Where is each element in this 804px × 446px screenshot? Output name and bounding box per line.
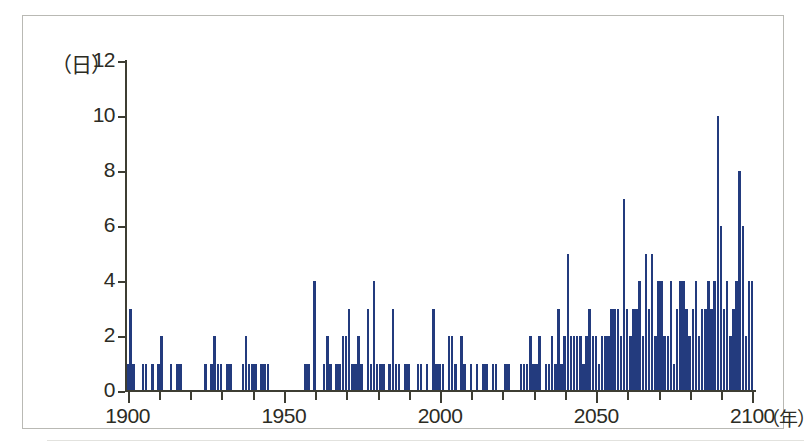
- bar: [442, 364, 445, 392]
- x-axis-minor-tick: [659, 392, 661, 400]
- bar: [454, 364, 457, 392]
- x-axis-minor-tick: [471, 392, 473, 400]
- x-axis: 19001950200020502100: [125, 390, 756, 392]
- y-axis-tick-label: 0: [104, 378, 115, 402]
- x-axis-minor-tick: [346, 392, 348, 400]
- x-axis-minor-tick: [502, 392, 504, 400]
- x-axis-minor-tick: [221, 392, 223, 400]
- y-axis-tick-label: 4: [104, 268, 115, 292]
- x-axis-major-tick: [128, 392, 130, 403]
- y-axis-tick: [118, 116, 125, 118]
- x-axis-minor-tick: [253, 392, 255, 400]
- bar: [426, 364, 429, 392]
- x-axis-minor-tick: [690, 392, 692, 400]
- x-axis-minor-tick: [534, 392, 536, 400]
- bar: [145, 364, 148, 392]
- x-axis-major-tick: [752, 392, 754, 403]
- bar: [420, 364, 423, 392]
- x-axis-minor-tick: [409, 392, 411, 400]
- bar: [751, 281, 754, 391]
- x-axis-tick-label: 2100: [730, 404, 775, 428]
- figure-frame: （日） （年） 024681012 19001950200020502100: [22, 15, 784, 429]
- x-axis-tick-label: 2000: [418, 404, 463, 428]
- x-axis-minor-tick: [627, 392, 629, 400]
- bar: [170, 364, 173, 392]
- x-axis-minor-tick: [159, 392, 161, 400]
- bar: [267, 364, 270, 392]
- bar: [485, 364, 488, 392]
- scan-separator-line: [47, 440, 804, 441]
- y-axis-tick-label: 8: [104, 158, 115, 182]
- x-axis-tick-label: 1900: [105, 404, 150, 428]
- bar: [360, 364, 363, 392]
- bar: [495, 364, 498, 392]
- bar: [307, 364, 310, 392]
- y-axis-tick: [118, 61, 125, 63]
- bar: [507, 364, 510, 392]
- bar: [329, 364, 332, 392]
- chart-figure: （日） （年） 024681012 19001950200020502100: [0, 0, 804, 446]
- x-axis-minor-tick: [721, 392, 723, 400]
- y-axis-tick-label: 2: [104, 323, 115, 347]
- y-axis-tick-label: 6: [104, 213, 115, 237]
- bar: [382, 364, 385, 392]
- bar: [470, 364, 473, 392]
- bar: [463, 364, 466, 392]
- y-axis-tick-label: 12: [93, 48, 115, 72]
- x-axis-minor-tick: [378, 392, 380, 400]
- bar: [179, 364, 182, 392]
- bar: [151, 364, 154, 392]
- bar: [476, 364, 479, 392]
- x-axis-minor-tick: [565, 392, 567, 400]
- y-axis-tick: [118, 391, 125, 393]
- y-axis-tick-label: 10: [93, 103, 115, 127]
- bar: [407, 364, 410, 392]
- bar-series: [126, 61, 754, 391]
- bar: [160, 336, 163, 391]
- bar: [313, 281, 316, 391]
- y-axis-tick: [118, 336, 125, 338]
- bar: [538, 336, 541, 391]
- bar: [204, 364, 207, 392]
- bar: [229, 364, 232, 392]
- y-axis-tick: [118, 171, 125, 173]
- y-axis-tick: [118, 281, 125, 283]
- x-axis-minor-tick: [315, 392, 317, 400]
- bar: [254, 364, 257, 392]
- x-axis-tick-label: 2050: [574, 404, 619, 428]
- x-axis-major-tick: [284, 392, 286, 403]
- x-axis-major-tick: [440, 392, 442, 403]
- bar: [132, 364, 135, 392]
- bar: [398, 364, 401, 392]
- x-axis-major-tick: [596, 392, 598, 403]
- y-axis: 024681012: [125, 60, 127, 392]
- bar: [220, 364, 223, 392]
- y-axis-tick: [118, 226, 125, 228]
- x-axis-tick-label: 1950: [261, 404, 306, 428]
- plot-area: [126, 61, 754, 391]
- x-axis-minor-tick: [190, 392, 192, 400]
